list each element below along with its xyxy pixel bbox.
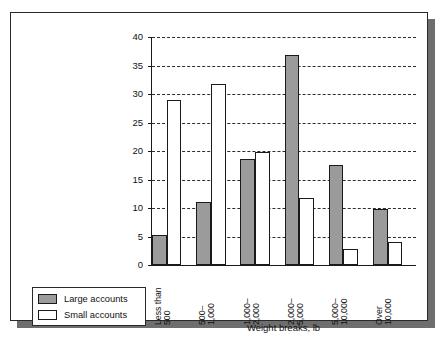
x-tick-label: 5,000–10,000 — [331, 269, 345, 325]
x-tick-label: 1,000–2,000 — [243, 269, 257, 325]
plot-area: 0510152025303540 — [151, 37, 416, 265]
legend-label: Large accounts — [64, 294, 128, 304]
bar — [152, 235, 167, 265]
bar — [388, 242, 403, 265]
legend-label: Small accounts — [64, 310, 127, 320]
legend-swatch-large — [38, 294, 57, 304]
y-tick-label: 10 — [117, 203, 143, 213]
bar — [211, 84, 226, 265]
x-tick-label-line2: 500 — [163, 269, 172, 325]
bar — [299, 198, 314, 265]
chart-legend: Large accountsSmall accounts — [32, 287, 146, 326]
bar — [255, 152, 270, 265]
bar — [343, 249, 358, 265]
x-axis-baseline — [152, 265, 416, 266]
x-tick-label-line2: 2,000 — [251, 269, 260, 325]
y-tick-label: 0 — [117, 260, 143, 270]
bar — [329, 165, 344, 265]
y-tick-label: 15 — [117, 175, 143, 185]
x-axis-tick-labels: Less than500500–1,0001,000–2,0002,000–5,… — [151, 269, 416, 325]
gridline — [152, 37, 416, 38]
chart-figure-frame: Percent of shipments 0510152025303540 Le… — [10, 12, 428, 321]
y-tick-label: 35 — [117, 61, 143, 71]
bar — [196, 202, 211, 265]
y-tick-label: 20 — [117, 146, 143, 156]
x-tick-label: Less than500 — [154, 269, 168, 325]
y-tick-mark — [148, 66, 152, 67]
bar — [167, 100, 182, 265]
bar — [285, 55, 300, 265]
y-tick-mark — [148, 180, 152, 181]
legend-item: Large accounts — [38, 292, 140, 306]
x-tick-label-line2: 5,000 — [296, 269, 305, 325]
x-tick-label-line2: 1,000 — [207, 269, 216, 325]
x-tick-label: 2,000–5,000 — [287, 269, 301, 325]
legend-item: Small accounts — [38, 308, 140, 322]
y-tick-label: 30 — [117, 89, 143, 99]
y-tick-mark — [148, 208, 152, 209]
x-axis-title: Weight breaks, lb — [151, 322, 416, 333]
x-tick-label-line2: 10,000 — [340, 269, 349, 325]
y-tick-mark — [148, 265, 152, 266]
bar — [373, 209, 388, 265]
bar — [240, 159, 255, 265]
y-tick-mark — [148, 94, 152, 95]
y-tick-mark — [148, 37, 152, 38]
y-tick-label: 5 — [117, 232, 143, 242]
y-tick-label: 25 — [117, 118, 143, 128]
legend-swatch-small — [38, 310, 57, 320]
x-tick-label: Over10,000 — [375, 269, 389, 325]
y-tick-mark — [148, 123, 152, 124]
y-tick-mark — [148, 151, 152, 152]
x-tick-label: 500–1,000 — [198, 269, 212, 325]
y-tick-label: 40 — [117, 32, 143, 42]
x-tick-label-line2: 10,000 — [384, 269, 393, 325]
